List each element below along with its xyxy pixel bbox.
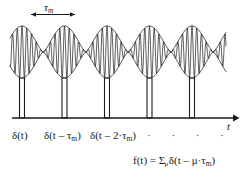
delta-pulse-3 [147, 78, 152, 118]
dirac-pulse-train [20, 78, 195, 118]
delta-pulse-2 [105, 78, 110, 118]
delta-label-0-text: δ(t) [12, 129, 28, 141]
delta-label-2-main: δ(t – 2·τ [90, 129, 127, 141]
delta-label-1-main: δ(t – τ [44, 129, 71, 141]
formula-body-subscript: m [206, 159, 212, 168]
envelope-upper-curve [10, 26, 226, 52]
axis-arrowhead [233, 115, 240, 122]
delta-label-1-subscript: m [71, 134, 77, 143]
period-label: τm [44, 2, 53, 13]
figure-container: τm δ(t) δ(t – τm) δ(t – 2·τm) · · · · t … [0, 0, 246, 177]
period-label-subscript: m [48, 6, 53, 15]
curve-path [10, 26, 226, 52]
delta-label-1: δ(t – τm) [44, 130, 81, 141]
formula-body: δ(t – μ·τ [169, 154, 206, 166]
waveform-diagram [0, 0, 246, 177]
time-axis-label: t [227, 121, 230, 132]
delta-label-1-tail: ) [77, 129, 81, 141]
formula-lead: f(t) = Σ [133, 154, 165, 166]
formula-tail: ) [212, 154, 216, 166]
delta-label-2: δ(t – 2·τm) [90, 130, 136, 141]
comb-formula: f(t) = Σμδ(t – μ·τm) [133, 155, 215, 166]
delta-label-0: δ(t) [12, 130, 28, 141]
delta-label-2-subscript: m [127, 134, 133, 143]
delta-pulse-1 [62, 78, 67, 118]
formula-sum-index: μ [164, 160, 168, 167]
period-arrowhead-left [31, 12, 36, 17]
ellipsis-dots: · · · · [147, 130, 233, 141]
delta-label-2-tail: ) [132, 129, 136, 141]
period-arrowhead-right [70, 12, 75, 17]
time-axis [12, 115, 240, 122]
delta-pulse-0 [20, 78, 25, 118]
delta-pulse-4 [190, 78, 195, 118]
